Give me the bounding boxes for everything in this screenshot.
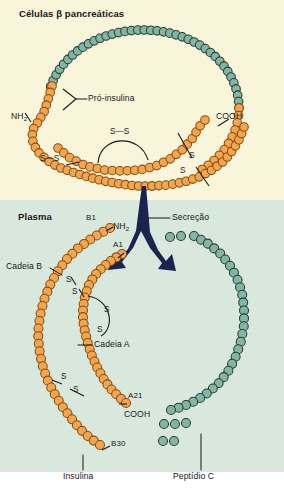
- chain-a-label: Cadeia A: [94, 340, 130, 349]
- diagram-artwork: .bo{fill:#f2a74e;stroke:#8a4b12;stroke-w…: [0, 0, 284, 494]
- nh2-top-label: NH2: [11, 112, 27, 122]
- b1-label: B1: [86, 214, 96, 222]
- insulin-chain-b-icon: [34, 224, 115, 450]
- ss-intra-a-label-a: S: [104, 306, 110, 314]
- insulin-label: Insulina: [63, 472, 93, 481]
- ss-bond-diag-top-label-a: S: [189, 152, 195, 160]
- ss-lower-label-b: S: [73, 386, 79, 394]
- proinsulin-label: Pró-insulina: [88, 94, 135, 103]
- plasma-panel-title: Plasma: [18, 212, 52, 222]
- chain-b-label: Cadeia B: [6, 262, 42, 271]
- beta-cell-panel-title: Células β pancreáticas: [19, 9, 124, 19]
- ss-intra-a-label-b: S: [97, 326, 103, 334]
- b30-label: B30: [111, 440, 126, 448]
- insulin-biosynthesis-figure: .bo{fill:#f2a74e;stroke:#8a4b12;stroke-w…: [0, 0, 284, 494]
- ss-upper-label-b: S: [72, 288, 78, 296]
- proinsulin-chain-icon: [28, 26, 248, 191]
- ss-bond-left-top-label: S—S: [40, 155, 59, 163]
- ss-upper-label-a: S: [66, 276, 72, 284]
- ss-bond-diag-top-label-b: S: [180, 167, 186, 175]
- cooh-bottom-label: COOH: [124, 410, 150, 419]
- a21-label: A21: [128, 392, 143, 400]
- ss-bond-arc-top-label: S—S: [110, 128, 129, 136]
- ss-bond-arc-top: [98, 141, 148, 163]
- cooh-top-label: COOH: [216, 112, 242, 121]
- secretion-label: Secreção: [172, 213, 209, 222]
- a1-label: A1: [113, 241, 123, 249]
- nh2-bottom-label: NH2: [113, 222, 129, 232]
- proinsulin-pointer: [63, 89, 76, 110]
- insulin-chain-a-icon: [79, 250, 131, 408]
- ss-lower-label-a: S: [61, 373, 67, 381]
- c-peptide-label: Peptídio C: [173, 472, 214, 481]
